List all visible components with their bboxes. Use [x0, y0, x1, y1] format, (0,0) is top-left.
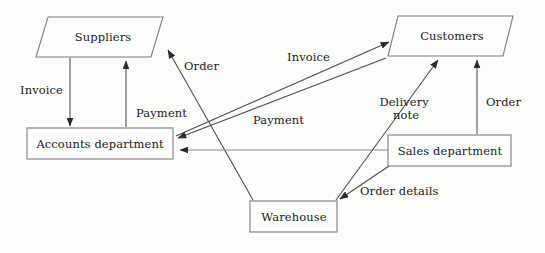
delivery-note-line-2: note [393, 108, 419, 122]
sales-department-label: Sales department [398, 144, 503, 158]
flow-label-order-sales-customers: Order [486, 95, 521, 109]
diagram-canvas: Suppliers Customers Accounts department … [0, 0, 545, 253]
warehouse-label: Warehouse [261, 210, 326, 224]
data-flow-diagram: Suppliers Customers Accounts department … [0, 0, 545, 253]
node-warehouse[interactable]: Warehouse [250, 201, 337, 232]
flow-label-invoice-suppliers-accounts: Invoice [20, 83, 63, 97]
delivery-note-line-1: Delivery [379, 95, 429, 109]
flow-label-delivery-note-warehouse-customers: Delivery note [379, 95, 432, 122]
suppliers-label: Suppliers [75, 30, 131, 44]
flow-label-payment-customers-accounts: Payment [253, 113, 304, 127]
flow-label-invoice-accounts-customers: Invoice [287, 50, 330, 64]
flow-labels: Invoice Payment Order Invoice Payment De… [20, 50, 521, 198]
accounts-department-label: Accounts department [35, 137, 164, 151]
node-suppliers[interactable]: Suppliers [36, 17, 163, 57]
flow-line-delivery-note-warehouse-customers [336, 60, 438, 200]
flow-label-payment-accounts-suppliers: Payment [136, 106, 187, 120]
flow-label-order-details-sales-warehouse: Order details [360, 184, 438, 198]
node-sales-department[interactable]: Sales department [388, 135, 511, 166]
node-customers[interactable]: Customers [388, 16, 513, 56]
node-accounts-department[interactable]: Accounts department [27, 128, 173, 159]
flow-label-order-warehouse-suppliers: Order [184, 59, 219, 73]
customers-label: Customers [420, 29, 484, 43]
